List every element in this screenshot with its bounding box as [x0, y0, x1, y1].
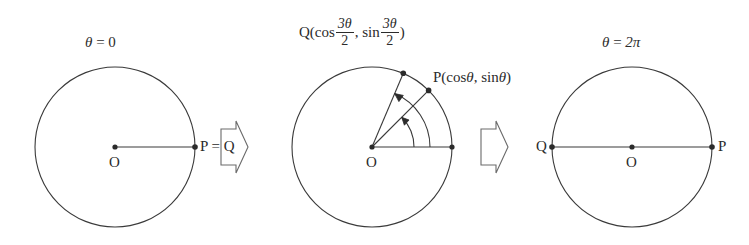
fraction-numerator-cos: 3θ	[336, 17, 354, 33]
q-label-prefix: Q(cos	[299, 24, 335, 40]
point-dot-p-middle	[426, 88, 432, 94]
fraction-three-theta-over-two-sin: 3θ2	[381, 17, 399, 48]
fraction-denominator-cos: 2	[336, 33, 354, 48]
origin-dot-start	[112, 144, 117, 149]
p-label-theta-sin: θ	[499, 69, 506, 85]
p-label-suffix: )	[506, 69, 511, 85]
fraction-numerator-sin: 3θ	[381, 17, 399, 33]
q-label-suffix: )	[400, 24, 405, 40]
fraction-three-theta-over-two-cos: 3θ2	[336, 17, 354, 48]
rotation-diagram-figure: θ = 0 O P = Q Q(cos3θ2, sin3θ2) P(cosθ, …	[0, 0, 749, 245]
angle-arc-three-halves-theta-arrowhead	[395, 94, 404, 102]
coordinate-label-p-middle: P(cosθ, sinθ)	[433, 70, 511, 85]
point-dot-q-middle	[401, 71, 407, 77]
panel-middle-graphics	[292, 67, 455, 227]
p-label-prefix: P(cos	[433, 69, 466, 85]
point-label-p-end: P	[718, 139, 726, 154]
origin-label-middle: O	[366, 155, 377, 170]
point-dot-reference-middle	[449, 144, 454, 149]
transition-arrow-2	[481, 121, 508, 173]
panel-start-graphics	[35, 67, 198, 227]
point-label-q-end: Q	[536, 139, 547, 154]
theta-value-end: 2π	[625, 34, 640, 50]
point-dot-p-end	[709, 144, 715, 150]
origin-dot-middle	[369, 144, 374, 149]
point-dot-q-end	[549, 144, 555, 150]
equals-sign-end: =	[609, 34, 625, 50]
radius-line-q-middle	[372, 73, 403, 147]
panel-end-graphics	[549, 67, 715, 227]
q-label-separator: , sin	[355, 24, 380, 40]
p-label-theta-cos: θ	[466, 69, 473, 85]
p-label-separator: , sin	[474, 69, 499, 85]
coordinate-label-q-middle: Q(cos3θ2, sin3θ2)	[299, 18, 405, 49]
origin-label-end: O	[626, 155, 637, 170]
equals-sign-start: =	[92, 34, 108, 50]
theta-value-start: 0	[108, 34, 116, 50]
angle-arc-three-halves-theta-middle	[395, 94, 430, 147]
point-label-p-equals-q: P = Q	[200, 139, 235, 154]
origin-dot-end	[629, 144, 634, 149]
block-arrow-right-icon-2	[481, 121, 508, 173]
fraction-denominator-sin: 2	[381, 33, 399, 48]
point-dot-pq-start	[192, 144, 198, 150]
theta-equals-zero-label: θ = 0	[85, 35, 116, 50]
origin-label-start: O	[109, 155, 120, 170]
theta-equals-two-pi-label: θ = 2π	[602, 35, 640, 50]
